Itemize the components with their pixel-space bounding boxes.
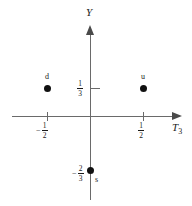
x-axis-label-subscript: 3 [178, 127, 182, 136]
x-tick-positive-numerator: 1 [138, 122, 144, 130]
y-axis-label-text: Y [86, 6, 92, 18]
y-tick-negative-denominator: 3 [78, 174, 84, 182]
y-tick-negative-sign: − [72, 169, 77, 178]
x-tick-positive-denominator: 2 [138, 131, 144, 139]
x-tick-negative-sign: − [36, 126, 41, 135]
x-axis-arrow-icon [172, 112, 182, 120]
x-axis-line [12, 116, 174, 117]
y-axis-line [90, 33, 91, 200]
data-point-d [44, 85, 51, 92]
x-tick-positive-label: 1 2 [137, 122, 144, 139]
x-tick-negative-label: − 1 2 [36, 122, 48, 139]
y-tick-positive-label: 1 3 [76, 80, 83, 97]
y-tick-positive-mark [91, 88, 100, 89]
data-point-u [140, 85, 147, 92]
data-point-label-s: s [95, 175, 98, 184]
y-tick-positive-denominator: 3 [77, 89, 83, 97]
x-axis-label: T3 [172, 121, 182, 136]
hypercharge-isospin-plot: Y T3 1 3 − 2 3 − 1 2 1 [0, 0, 192, 206]
y-axis-arrow-icon [86, 25, 94, 35]
data-point-label-u: u [141, 72, 145, 81]
x-tick-negative-denominator: 2 [42, 131, 48, 139]
x-tick-negative-numerator: 1 [42, 122, 48, 130]
y-axis-label: Y [86, 6, 92, 18]
x-tick-positive-mark [143, 112, 144, 121]
y-tick-negative-label: − 2 3 [72, 165, 84, 182]
data-point-s [87, 167, 94, 174]
x-tick-negative-mark [47, 112, 48, 121]
y-tick-positive-numerator: 1 [77, 80, 83, 88]
y-tick-negative-numerator: 2 [78, 165, 84, 173]
data-point-label-d: d [45, 72, 49, 81]
